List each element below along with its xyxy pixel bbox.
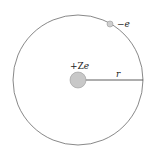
bohr-atom-diagram: +Ze r −e: [0, 0, 150, 165]
electron-label: −e: [117, 19, 130, 29]
nucleus-label: +Ze: [70, 61, 89, 71]
radius-label: r: [116, 69, 121, 79]
electron: [107, 21, 113, 27]
nucleus: [70, 72, 86, 88]
